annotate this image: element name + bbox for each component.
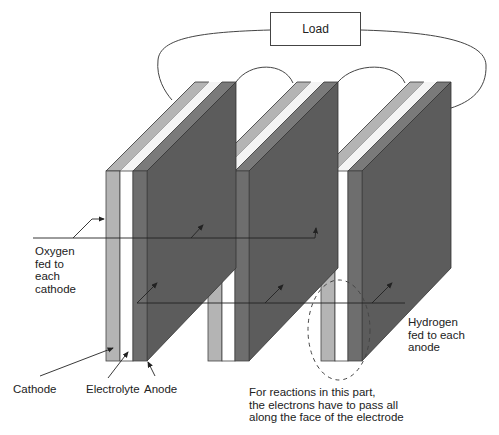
jumper-wire-1-2 [236,67,293,83]
load-label: Load [302,22,329,36]
hydrogen-label: Hydrogen fed to each anode [408,316,465,354]
load-box: Load [270,12,361,46]
fuel-cell-diagram [0,0,499,435]
reaction-note-label: For reactions in this part, the electron… [249,386,404,424]
anode-label: Anode [144,383,177,396]
electrolyte-label: Electrolyte [86,383,140,396]
oxygen-label: Oxygen fed to each cathode [35,245,76,295]
cathode-label: Cathode [13,383,56,396]
jumper-wire-2-3 [338,67,405,83]
